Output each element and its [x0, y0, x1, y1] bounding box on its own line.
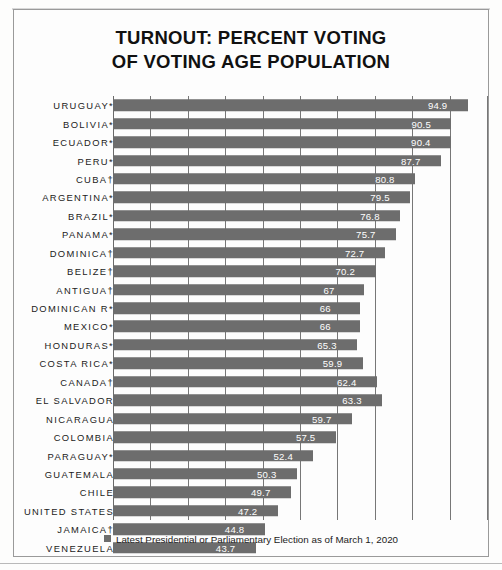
chart-row: ECUADOR*90.4 — [13, 133, 489, 151]
bar-value-label: 94.9 — [428, 100, 447, 111]
bar-value-label: 80.8 — [375, 173, 394, 184]
chart-row: EL SALVADOR63.3 — [13, 391, 489, 409]
bar-value-label: 59.7 — [312, 413, 331, 424]
chart-bar-rows: URUGUAY*94.9BOLIVIA*90.5ECUADOR*90.4PERU… — [13, 96, 489, 557]
row-plot: 79.5 — [113, 188, 487, 206]
row-plot: 63.3 — [113, 391, 487, 409]
chart-row: NICARAGUA59.7 — [13, 409, 489, 427]
chart-row: CHILE49.7 — [13, 483, 489, 501]
row-plot: 72.7 — [113, 244, 487, 262]
chart-title-line-1: TURNOUT: PERCENT VOTING — [13, 26, 489, 50]
chart-row: PERU*87.7 — [13, 151, 489, 169]
category-label: DOMINICA† — [50, 247, 114, 258]
chart-row: MEXICO*66 — [13, 317, 489, 335]
legend-label: Latest Presidential or Parliamentary Ele… — [116, 534, 398, 545]
bar-value-label: 75.7 — [356, 229, 375, 240]
row-plot: 75.7 — [113, 225, 487, 243]
row-plot: 50.3 — [113, 465, 487, 483]
row-plot: 76.8 — [113, 207, 487, 225]
category-label: COLOMBIA — [54, 432, 114, 443]
category-label: PERU* — [78, 155, 114, 166]
bar-value-label: 90.4 — [411, 137, 430, 148]
category-label: UNITED STATES — [24, 505, 114, 516]
bar-value-label: 47.2 — [238, 505, 257, 516]
legend-swatch-icon — [104, 535, 111, 542]
row-plot: 59.7 — [113, 409, 487, 427]
row-plot: 66 — [113, 317, 487, 335]
category-label: DOMINICAN R* — [31, 303, 114, 314]
row-plot: 80.8 — [113, 170, 487, 188]
bar-value-label: 76.8 — [360, 210, 379, 221]
row-plot: 59.9 — [113, 354, 487, 372]
bar — [113, 136, 451, 148]
chart-row: COLOMBIA57.5 — [13, 428, 489, 446]
chart-title-line-2: OF VOTING AGE POPULATION — [13, 50, 489, 74]
chart-row: CANADA†62.4 — [13, 373, 489, 391]
bar-value-label: 52.4 — [273, 450, 292, 461]
bar-value-label: 62.4 — [337, 376, 356, 387]
category-label: COSTA RICA* — [39, 358, 114, 369]
category-label: ARGENTINA* — [42, 192, 114, 203]
chart-row: BELIZE†70.2 — [13, 262, 489, 280]
chart-row: ANTIGUA†67 — [13, 280, 489, 298]
chart-page: TURNOUT: PERCENT VOTING OF VOTING AGE PO… — [0, 0, 502, 570]
category-label: ECUADOR* — [53, 137, 114, 148]
category-label: BRAZIL* — [68, 210, 114, 221]
chart-row: BOLIVIA*90.5 — [13, 114, 489, 132]
chart-row: PARAGUAY*52.4 — [13, 446, 489, 464]
category-label: HONDURAS* — [45, 339, 114, 350]
chart-row: DOMINICA†72.7 — [13, 244, 489, 262]
bar-value-label: 90.5 — [411, 118, 430, 129]
category-label: CANADA† — [60, 376, 114, 387]
row-plot: 66 — [113, 299, 487, 317]
bar — [113, 155, 441, 167]
row-plot: 47.2 — [113, 502, 487, 520]
row-plot: 67 — [113, 280, 487, 298]
bar-value-label: 57.5 — [296, 432, 315, 443]
chart-row: URUGUAY*94.9 — [13, 96, 489, 114]
category-label: PANAMA* — [62, 229, 114, 240]
bar-value-label: 50.3 — [257, 468, 276, 479]
chart-legend: Latest Presidential or Parliamentary Ele… — [13, 534, 489, 545]
bar — [113, 229, 396, 241]
row-plot: 49.7 — [113, 483, 487, 501]
category-label: GUATEMALA — [45, 468, 114, 479]
bar-value-label: 59.9 — [323, 358, 342, 369]
category-label: PARAGUAY* — [47, 450, 114, 461]
row-plot: 87.7 — [113, 151, 487, 169]
bar — [113, 118, 451, 130]
chart-row: ARGENTINA*79.5 — [13, 188, 489, 206]
bar-value-label: 66 — [320, 303, 331, 314]
category-label: NICARAGUA — [46, 413, 114, 424]
chart-row: CUBA†80.8 — [13, 170, 489, 188]
chart-row: COSTA RICA*59.9 — [13, 354, 489, 372]
chart-plot-region: URUGUAY*94.9BOLIVIA*90.5ECUADOR*90.4PERU… — [13, 96, 489, 520]
category-label: CUBA† — [76, 173, 114, 184]
bar — [113, 192, 410, 204]
row-plot: 52.4 — [113, 446, 487, 464]
bar-value-label: 70.2 — [336, 266, 355, 277]
category-label: URUGUAY* — [53, 100, 114, 111]
bar-value-label: 79.5 — [370, 192, 389, 203]
chart-row: HONDURAS*65.3 — [13, 336, 489, 354]
category-label: MEXICO* — [64, 321, 114, 332]
bar — [113, 210, 400, 222]
row-plot: 70.2 — [113, 262, 487, 280]
bar-value-label: 63.3 — [342, 395, 361, 406]
chart-title: TURNOUT: PERCENT VOTING OF VOTING AGE PO… — [13, 26, 489, 75]
page-bottom-rule — [0, 563, 502, 564]
chart-row: UNITED STATES47.2 — [13, 502, 489, 520]
chart-row: GUATEMALA50.3 — [13, 465, 489, 483]
row-plot: 65.3 — [113, 336, 487, 354]
row-plot: 62.4 — [113, 373, 487, 391]
category-label: CHILE — [80, 487, 114, 498]
category-label: BOLIVIA* — [63, 118, 114, 129]
bar-value-label: 65.3 — [317, 339, 336, 350]
category-label: ANTIGUA† — [56, 284, 114, 295]
chart-row: PANAMA*75.7 — [13, 225, 489, 243]
chart-row: BRAZIL*76.8 — [13, 207, 489, 225]
row-plot: 94.9 — [113, 96, 487, 114]
row-plot: 90.5 — [113, 114, 487, 132]
bar-value-label: 87.7 — [401, 155, 420, 166]
category-label: EL SALVADOR — [36, 395, 114, 406]
